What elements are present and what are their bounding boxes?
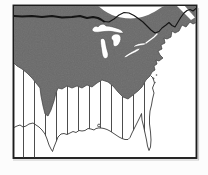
island-dot bbox=[154, 82, 155, 83]
glaciation-map-svg bbox=[0, 0, 208, 175]
island-dot bbox=[153, 78, 155, 80]
map-figure bbox=[0, 0, 208, 175]
delta-squiggle bbox=[98, 124, 101, 127]
island-dot bbox=[156, 74, 158, 76]
